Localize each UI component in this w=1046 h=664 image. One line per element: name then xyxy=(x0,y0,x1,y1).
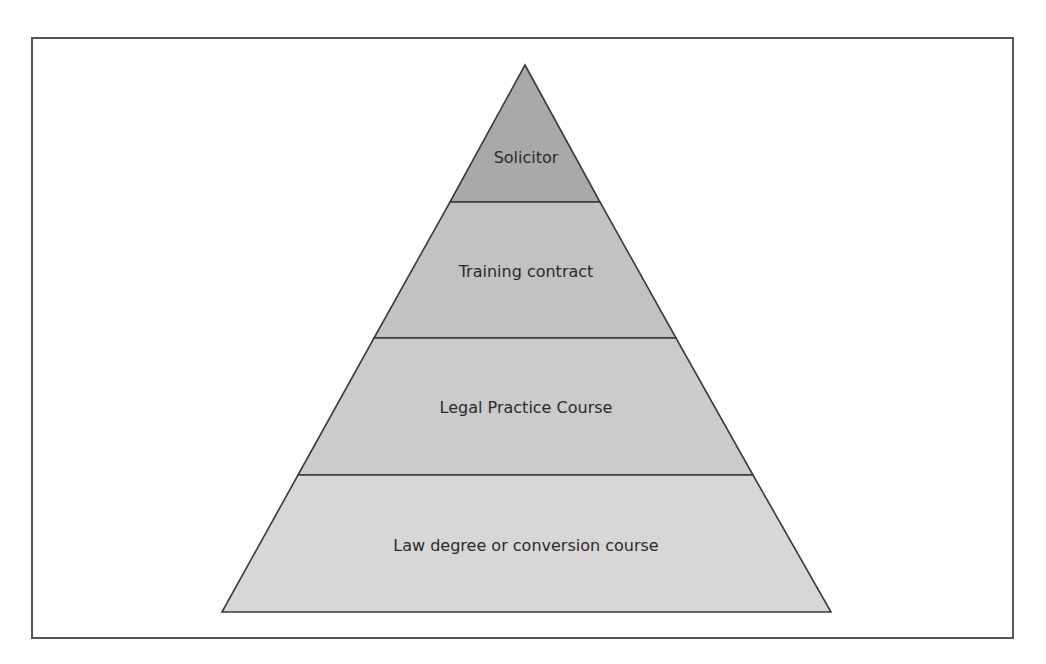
pyramid-level-1 xyxy=(450,65,600,202)
level-label-legal-practice-course: Legal Practice Course xyxy=(440,398,613,417)
level-label-training-contract: Training contract xyxy=(459,262,594,281)
pyramid xyxy=(0,0,1046,664)
level-label-solicitor: Solicitor xyxy=(494,148,559,167)
level-label-law-degree: Law degree or conversion course xyxy=(393,536,658,555)
